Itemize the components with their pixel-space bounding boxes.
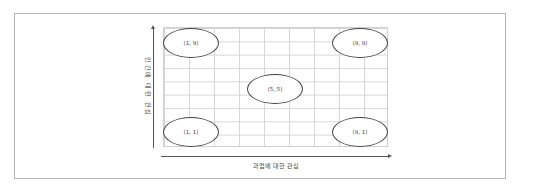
point-9-9: (9, 9) — [332, 28, 388, 58]
point-9-1: (9, 1) — [332, 117, 388, 147]
x-axis-arrow-icon — [388, 154, 392, 158]
y-axis-label: 인간에 대한 관심 — [144, 57, 153, 116]
point-1-9: (1, 9) — [163, 28, 219, 58]
y-axis-line — [153, 28, 154, 148]
y-axis-arrow-icon — [151, 25, 155, 29]
point-1-1: (1, 1) — [163, 117, 219, 147]
x-axis-line — [161, 156, 389, 157]
x-axis-label: 과업에 대한 관심 — [253, 161, 299, 170]
point-5-5: (5, 5) — [247, 74, 303, 104]
